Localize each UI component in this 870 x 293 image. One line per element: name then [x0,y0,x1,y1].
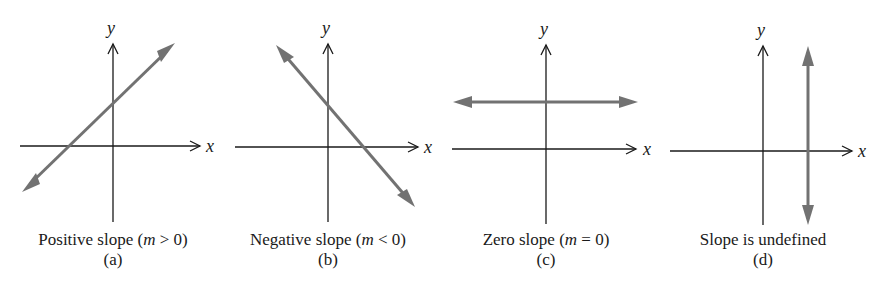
panel-a-graph: y x [20,18,214,222]
caption-text: Positive slope (m > 0) [13,230,213,250]
caption-text: Zero slope (m = 0) [446,230,646,250]
caption-letter: (d) [663,250,863,270]
arrow-head-icon [397,189,415,207]
panel-c-caption: Zero slope (m = 0) (c) [446,230,646,270]
x-axis-label: x [423,137,432,157]
caption-letter: (c) [446,250,646,270]
caption-text: Negative slope (m < 0) [228,230,428,250]
arrow-head-icon [802,205,814,225]
x-axis-label: x [857,141,866,161]
negative-slope-line [283,53,408,199]
caption-letter: (a) [13,250,213,270]
arrow-head-icon [453,96,472,108]
panel-a-caption: Positive slope (m > 0) (a) [13,230,213,270]
panel-b-graph: y x [235,18,432,222]
x-axis-label: x [642,139,651,159]
arrow-head-icon [276,45,294,63]
positive-slope-line [30,51,167,184]
y-axis-label: y [105,18,115,38]
arrow-head-icon [802,46,814,66]
y-axis-label: y [320,18,330,38]
arrow-head-icon [619,96,638,108]
panel-c-graph: y x [452,19,651,224]
panel-d-caption: Slope is undefined (d) [663,230,863,270]
y-axis-label: y [538,19,548,39]
caption-letter: (b) [228,250,428,270]
x-axis-label: x [205,136,214,156]
y-axis-label: y [755,20,765,40]
caption-text: Slope is undefined [663,230,863,250]
panel-b-caption: Negative slope (m < 0) (b) [228,230,428,270]
panel-d-graph: y x [670,20,866,225]
